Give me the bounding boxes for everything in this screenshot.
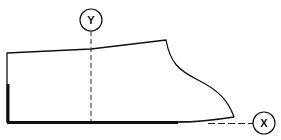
x-marker: X (253, 112, 275, 134)
x-marker-label: X (260, 117, 268, 129)
y-marker-label: Y (87, 14, 95, 26)
upper-outline (7, 40, 234, 122)
bottom-edge-thin (178, 122, 200, 123)
y-marker: Y (80, 9, 102, 31)
shoe-pattern-diagram: Y X (0, 0, 281, 140)
